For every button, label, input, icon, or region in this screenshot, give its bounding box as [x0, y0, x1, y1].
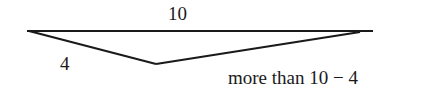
- right-side-label: more than 10 − 4: [228, 68, 358, 87]
- left-side-label: 4: [60, 54, 70, 73]
- top-side-label: 10: [168, 4, 187, 23]
- triangle-diagram: [0, 0, 423, 90]
- right-side: [156, 32, 360, 64]
- left-side: [29, 31, 156, 64]
